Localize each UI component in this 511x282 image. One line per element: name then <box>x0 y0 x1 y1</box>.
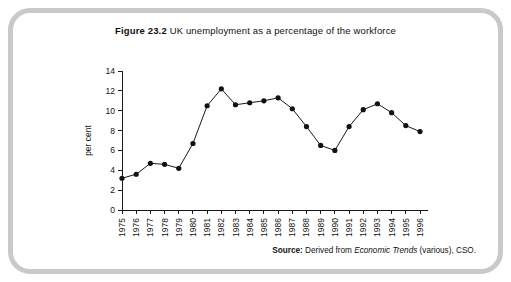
data-point <box>261 98 266 103</box>
data-point <box>403 123 408 128</box>
x-tick-label: 1986 <box>273 218 283 237</box>
x-tick-label: 1975 <box>117 218 127 237</box>
y-tick-label: 12 <box>106 86 116 96</box>
data-point <box>134 172 139 177</box>
data-point <box>148 161 153 166</box>
x-tick-label: 1993 <box>372 218 382 237</box>
data-point <box>219 86 224 91</box>
x-tick-label: 1981 <box>202 218 212 237</box>
source-label: Source: <box>272 246 302 255</box>
data-point <box>119 176 124 181</box>
data-point <box>318 143 323 148</box>
data-point <box>276 95 281 100</box>
x-tick-label: 1987 <box>287 218 297 237</box>
data-point <box>190 141 195 146</box>
data-point <box>162 162 167 167</box>
x-tick-label: 1996 <box>415 218 425 237</box>
data-point <box>233 102 238 107</box>
data-series <box>119 86 422 181</box>
y-tick-label: 4 <box>110 165 115 175</box>
data-point <box>332 148 337 153</box>
x-tick-label: 1992 <box>358 218 368 237</box>
x-tick-label: 1982 <box>216 218 226 237</box>
x-axis: 1975197619771978197919801981198219831984… <box>117 210 428 237</box>
x-tick-label: 1991 <box>344 218 354 237</box>
source-publication: Economic Trends <box>354 246 417 255</box>
y-tick-label: 10 <box>106 106 116 116</box>
x-tick-label: 1977 <box>145 218 155 237</box>
x-tick-label: 1995 <box>401 218 411 237</box>
source-text-after: (various), CSO. <box>420 246 476 255</box>
y-axis-label: per cent <box>83 125 93 156</box>
x-tick-label: 1978 <box>160 218 170 237</box>
figure-container: Figure 23.2 UK unemployment as a percent… <box>8 8 503 274</box>
data-point <box>346 124 351 129</box>
x-tick-label: 1984 <box>245 218 255 237</box>
x-tick-label: 1989 <box>316 218 326 237</box>
x-tick-label: 1976 <box>131 218 141 237</box>
data-point <box>375 101 380 106</box>
x-tick-label: 1983 <box>231 218 241 237</box>
y-tick-label: 0 <box>110 205 115 215</box>
data-point <box>304 124 309 129</box>
data-point <box>176 166 181 171</box>
data-point <box>290 106 295 111</box>
x-tick-label: 1979 <box>174 218 184 237</box>
chart-area: 02468101214 1975197619771978197919801981… <box>13 43 508 243</box>
y-tick-label: 14 <box>106 66 116 76</box>
y-axis: 02468101214 <box>106 66 122 215</box>
line-chart: 02468101214 1975197619771978197919801981… <box>13 43 508 243</box>
y-tick-label: 6 <box>110 145 115 155</box>
data-point <box>205 103 210 108</box>
source-text-before: Derived from <box>305 246 352 255</box>
figure-number: Figure 23.2 <box>115 25 167 36</box>
x-tick-label: 1980 <box>188 218 198 237</box>
data-point <box>247 100 252 105</box>
data-point <box>417 129 422 134</box>
figure-title: UK unemployment as a percentage of the w… <box>170 25 396 36</box>
x-tick-label: 1988 <box>301 218 311 237</box>
x-tick-label: 1990 <box>330 218 340 237</box>
figure-caption: Figure 23.2 UK unemployment as a percent… <box>13 25 498 36</box>
y-tick-label: 8 <box>110 126 115 136</box>
source-note: Source: Derived from Economic Trends (va… <box>272 246 476 255</box>
y-axis-title: per cent <box>83 125 93 156</box>
data-point <box>389 110 394 115</box>
data-point <box>361 107 366 112</box>
x-tick-label: 1985 <box>259 218 269 237</box>
y-tick-label: 2 <box>110 185 115 195</box>
x-tick-label: 1994 <box>387 218 397 237</box>
